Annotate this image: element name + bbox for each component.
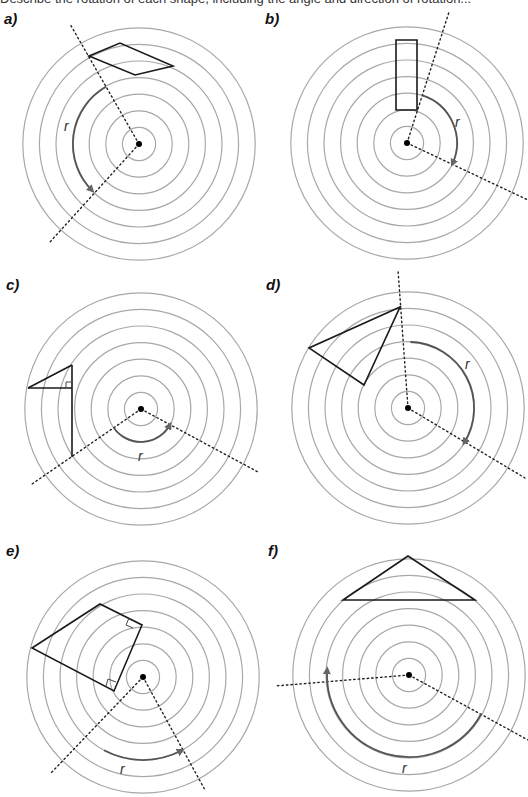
radius-label: r	[64, 118, 70, 134]
rotation-arc-arrow	[114, 425, 170, 442]
shape	[309, 307, 400, 385]
panel-d: r	[292, 270, 525, 524]
dotted-ray	[70, 24, 139, 144]
shape	[32, 604, 142, 691]
center-point	[136, 141, 142, 147]
right-angle-marker	[66, 382, 72, 388]
center-point	[405, 405, 411, 411]
dotted-ray	[143, 677, 205, 790]
center-point	[140, 674, 146, 680]
radius-label: r	[402, 760, 408, 776]
panel-f: r	[275, 556, 528, 791]
rotation-arc-arrow	[104, 750, 182, 760]
radius-label: r	[455, 114, 461, 130]
center-point	[406, 672, 412, 678]
center-point	[404, 140, 410, 146]
shape	[343, 556, 475, 600]
rotation-diagrams: rrrrrr	[0, 0, 528, 797]
panel-b: r	[291, 12, 528, 259]
dotted-ray	[398, 270, 408, 408]
shape	[396, 40, 417, 110]
dotted-ray	[409, 675, 528, 740]
radius-label: r	[465, 356, 471, 372]
panel-e: r	[27, 561, 259, 793]
dotted-ray	[275, 675, 409, 686]
panel-a: r	[23, 24, 255, 260]
center-point	[138, 406, 144, 412]
radius-label: r	[138, 448, 144, 464]
panel-c: r	[25, 293, 258, 525]
rotation-arc-arrow	[423, 95, 457, 164]
